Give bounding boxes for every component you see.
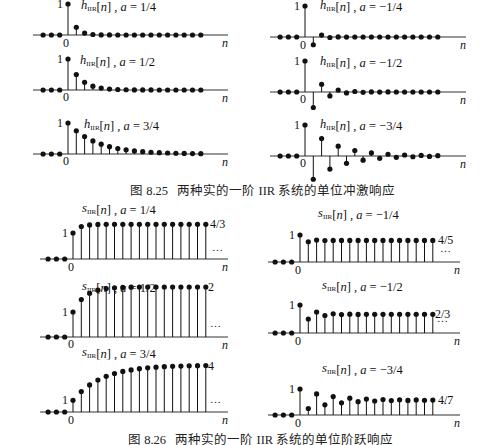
stem-marker bbox=[364, 396, 369, 401]
stem-marker bbox=[190, 32, 195, 37]
stem-marker bbox=[107, 144, 112, 149]
stem-plot-9: 01nsIIR[n] , a = 3/44… bbox=[40, 345, 228, 427]
stem-marker bbox=[380, 312, 385, 317]
stem-marker bbox=[405, 398, 410, 403]
stem-marker bbox=[322, 313, 327, 318]
stem-marker bbox=[95, 377, 100, 382]
x-tick-zero: 0 bbox=[295, 334, 301, 348]
stem-plot-3: 01nhIIR[n] , a = 3/4 bbox=[33, 116, 228, 169]
stem-marker bbox=[414, 397, 419, 402]
x-axis-label-n: n bbox=[460, 93, 466, 107]
stem-marker bbox=[331, 394, 336, 399]
panel-title: hIIR[n] , a = −1/2 bbox=[320, 54, 402, 70]
stem-marker bbox=[361, 158, 366, 163]
stem-marker bbox=[356, 312, 361, 317]
stem-marker bbox=[170, 284, 175, 289]
stem-marker bbox=[57, 151, 62, 156]
stem-marker bbox=[178, 363, 183, 368]
stem-marker bbox=[372, 238, 377, 243]
x-tick-zero: 0 bbox=[300, 38, 306, 52]
stem-marker bbox=[165, 32, 170, 37]
stem-marker bbox=[419, 89, 424, 94]
x-axis-label-n: n bbox=[460, 38, 466, 52]
panel-title: sIIR[n] , a = −1/4 bbox=[318, 206, 400, 222]
stem-marker bbox=[402, 89, 407, 94]
stem-marker bbox=[107, 86, 112, 91]
stem-marker bbox=[129, 367, 134, 372]
stem-marker bbox=[339, 400, 344, 405]
stem-marker bbox=[82, 134, 87, 139]
y-tick-one: 1 bbox=[289, 382, 295, 396]
x-tick-zero: 0 bbox=[300, 156, 306, 170]
stem-marker bbox=[107, 32, 112, 37]
stem-marker bbox=[65, 56, 70, 61]
x-axis-label-n: n bbox=[222, 36, 228, 50]
stem-marker bbox=[344, 161, 349, 166]
stem-marker bbox=[41, 87, 46, 92]
stem-marker bbox=[273, 330, 278, 335]
stem-marker bbox=[281, 412, 286, 417]
stem-marker bbox=[314, 237, 319, 242]
stem-marker bbox=[347, 396, 352, 401]
x-axis-label-n: n bbox=[222, 338, 228, 352]
panel-title: hIIR[n] , a = −1/4 bbox=[320, 0, 403, 14]
stem-marker bbox=[62, 256, 67, 261]
stem-marker bbox=[344, 90, 349, 95]
stem-marker bbox=[187, 363, 192, 368]
stem-marker bbox=[190, 87, 195, 92]
y-tick-one: 1 bbox=[294, 0, 300, 13]
stem-marker bbox=[414, 312, 419, 317]
panel-title: sIIR[n] , a = −3/4 bbox=[322, 361, 404, 377]
stem-marker bbox=[405, 312, 410, 317]
stem-marker bbox=[302, 3, 307, 8]
stem-marker bbox=[397, 397, 402, 402]
stem-marker bbox=[339, 238, 344, 243]
panel-title: hIIR[n] , a = 3/4 bbox=[84, 117, 160, 133]
stem-marker bbox=[90, 138, 95, 143]
stem-plot-1: 01nhIIR[n] , a = 1/4 bbox=[33, 0, 228, 50]
stem-marker bbox=[95, 222, 100, 227]
stem-marker bbox=[369, 89, 374, 94]
x-axis-label-n: n bbox=[222, 91, 228, 105]
stem-plot-7: 01nsIIR[n] , a = 1/44/3… bbox=[40, 201, 228, 274]
stem-marker bbox=[294, 34, 299, 39]
stem-marker bbox=[311, 42, 316, 47]
stem-marker bbox=[372, 312, 377, 317]
stem-marker bbox=[410, 154, 415, 159]
stem-marker bbox=[319, 32, 324, 37]
stem-marker bbox=[87, 382, 92, 387]
stem-marker bbox=[46, 334, 51, 339]
stem-marker bbox=[331, 238, 336, 243]
stem-marker bbox=[369, 34, 374, 39]
stem-marker bbox=[148, 32, 153, 37]
stem-marker bbox=[79, 389, 84, 394]
stem-marker bbox=[187, 284, 192, 289]
panel-title: hIIR[n] , a = 1/2 bbox=[80, 53, 155, 69]
stem-marker bbox=[336, 34, 341, 39]
stem-marker bbox=[319, 82, 324, 87]
stem-marker bbox=[361, 34, 366, 39]
stem-marker bbox=[162, 364, 167, 369]
stem-marker bbox=[203, 222, 208, 227]
stem-marker bbox=[297, 386, 302, 391]
panel-title: hIIR[n] , a = −3/4 bbox=[320, 117, 403, 133]
stem-marker bbox=[162, 284, 167, 289]
stem-marker bbox=[319, 136, 324, 141]
stem-marker bbox=[297, 302, 302, 307]
stem-marker bbox=[57, 32, 62, 37]
stem-marker bbox=[54, 334, 59, 339]
x-axis-label-n: n bbox=[454, 334, 460, 348]
stem-marker bbox=[145, 222, 150, 227]
steady-state-label: 4 bbox=[208, 359, 214, 373]
stem-marker bbox=[356, 238, 361, 243]
stem-marker bbox=[124, 32, 129, 37]
stem-marker bbox=[314, 309, 319, 314]
stem-marker bbox=[410, 34, 415, 39]
stem-marker bbox=[54, 256, 59, 261]
stem-marker bbox=[377, 156, 382, 161]
stem-marker bbox=[394, 89, 399, 94]
stem-marker bbox=[419, 153, 424, 158]
stem-marker bbox=[306, 239, 311, 244]
stem-marker bbox=[165, 150, 170, 155]
y-tick-one: 1 bbox=[57, 116, 63, 130]
